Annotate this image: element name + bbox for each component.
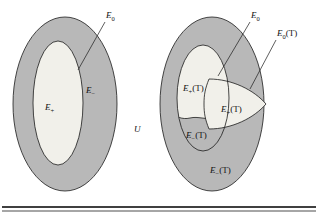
left-label-e0-sub: 0 <box>112 15 115 22</box>
right-label-inner-e-minus-t: E−(T) <box>185 130 207 142</box>
right-label-outer-e-minus-t: E−(T) <box>209 165 231 177</box>
right-label-e0-t-arg: (T) <box>286 28 298 38</box>
left-inner-ellipse-e-plus <box>33 41 83 165</box>
right-label-inner-e-minus-arg: (T) <box>195 130 207 140</box>
right-label-lens-arg: (T) <box>230 104 242 114</box>
right-label-outer-e-minus-arg: (T) <box>219 165 231 175</box>
left-label-e0: E0 <box>105 10 115 22</box>
right-label-e0-sub: 0 <box>257 15 260 22</box>
right-diagram-group: E0 E0(T) E+(T) E+(T) E−(T) E−(T) <box>160 10 297 191</box>
left-label-e-plus-sub: + <box>51 107 55 114</box>
figure-container: E0 E− E+ U <box>0 0 318 218</box>
label-universe-u: U <box>134 124 141 134</box>
set-diagram-svg: E0 E− E+ U <box>0 0 318 218</box>
left-label-e-minus-sub: − <box>92 90 96 97</box>
right-label-e0: E0 <box>250 10 260 22</box>
right-label-lens-e-plus-t: E+(T) <box>220 104 242 116</box>
right-label-e0-t: E0(T) <box>276 28 297 40</box>
left-diagram-group: E0 E− E+ <box>13 10 117 191</box>
right-label-e-plus-t-arg: (T) <box>192 83 204 93</box>
right-label-e-plus-t: E+(T) <box>182 83 204 95</box>
